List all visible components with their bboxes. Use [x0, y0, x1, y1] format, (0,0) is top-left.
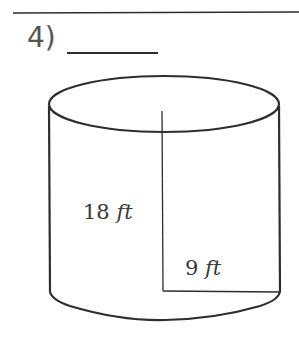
- cylinder-bottom-arc: [50, 291, 280, 320]
- radius-line: [163, 291, 279, 292]
- problem-number: 4): [27, 24, 56, 52]
- height-value: 18: [83, 200, 110, 224]
- radius-value: 9: [185, 256, 198, 280]
- radius-unit: ft: [205, 256, 221, 280]
- cylinder-top-ellipse: [49, 76, 279, 132]
- height-line: [162, 111, 163, 291]
- height-label: 18 ft: [83, 202, 133, 223]
- separator-line: [13, 12, 299, 13]
- height-unit: ft: [116, 200, 132, 224]
- worksheet-problem: 4) 18 ft 9 ft: [0, 0, 299, 355]
- cylinder-left-side: [49, 106, 50, 292]
- radius-label: 9 ft: [185, 258, 221, 279]
- cylinder-right-side: [279, 106, 280, 292]
